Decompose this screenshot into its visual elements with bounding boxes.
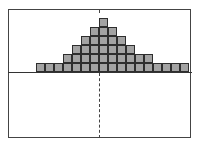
unit-square [99, 54, 108, 63]
unit-square [63, 54, 72, 63]
unit-square [99, 36, 108, 45]
unit-square [99, 63, 108, 72]
unit-square [135, 54, 144, 63]
unit-square [90, 27, 99, 36]
unit-square [81, 54, 90, 63]
x-axis-baseline [8, 72, 192, 73]
unit-square [180, 63, 189, 72]
unit-square [90, 54, 99, 63]
unit-square [72, 54, 81, 63]
unit-square [108, 63, 117, 72]
center-dashed-line [99, 73, 100, 138]
unit-square [126, 63, 135, 72]
unit-square [45, 63, 54, 72]
unit-square [117, 63, 126, 72]
unit-square [153, 63, 162, 72]
unit-square [99, 27, 108, 36]
unit-square [117, 45, 126, 54]
unit-square [81, 45, 90, 54]
unit-square [108, 27, 117, 36]
unit-square [108, 45, 117, 54]
unit-square [72, 45, 81, 54]
unit-square [135, 63, 144, 72]
unit-square [108, 54, 117, 63]
unit-square [126, 45, 135, 54]
unit-square [117, 54, 126, 63]
center-tick-mark [99, 10, 100, 13]
unit-square [54, 63, 63, 72]
unit-square [126, 54, 135, 63]
unit-square [63, 63, 72, 72]
unit-square [72, 63, 81, 72]
unit-square [81, 63, 90, 72]
unit-square [144, 54, 153, 63]
unit-square [90, 36, 99, 45]
unit-square [36, 63, 45, 72]
unit-square [171, 63, 180, 72]
unit-square [99, 45, 108, 54]
unit-square [90, 63, 99, 72]
unit-square [117, 36, 126, 45]
unit-square [162, 63, 171, 72]
unit-square [81, 36, 90, 45]
unit-square [90, 45, 99, 54]
unit-square [99, 18, 108, 27]
unit-square [108, 36, 117, 45]
unit-square [144, 63, 153, 72]
